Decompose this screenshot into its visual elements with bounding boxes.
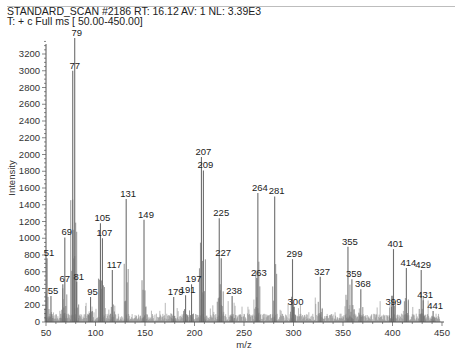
y-tick-label: 200 [24,299,40,310]
peak-labels: 5155676977798195105107117131149179191197… [44,27,443,311]
peak-label: 149 [138,209,154,220]
peak-label: 414 [400,257,416,268]
peak-label: 238 [226,285,242,296]
peak-label: 117 [107,259,122,270]
y-tick-label: 1000 [19,232,40,243]
y-tick-label: 400 [24,283,40,294]
peak-label: 401 [388,238,404,249]
x-tick-label: 200 [187,327,203,338]
y-tick-label: 2200 [19,132,40,143]
peak-label: 191 [180,284,196,295]
peak-label: 105 [95,212,111,223]
y-tick-label: 2400 [19,115,40,126]
peak-label: 429 [415,259,431,270]
peak-label: 431 [417,289,433,300]
x-tick-label: 250 [236,327,252,338]
y-axis-title: Intensity [6,160,17,196]
labeled-peaks [47,38,433,322]
y-tick-label: 800 [24,249,40,260]
mass-spectrum-chart: 0200400600800100012001400160018002000220… [0,0,463,355]
peak-label: 225 [213,207,229,218]
y-tick-label: 2800 [19,82,40,93]
peak-label: 368 [355,278,371,289]
x-tick-label: 350 [335,327,351,338]
x-axis-title: m/z [236,339,252,350]
y-tick-label: 1600 [19,182,40,193]
peak-label: 51 [44,247,55,258]
peak-label: 81 [73,271,84,282]
peak-label: 399 [386,296,402,307]
peak-label: 95 [87,286,98,297]
peak-label: 299 [287,248,303,259]
y-tick-label: 1800 [19,165,40,176]
peak-label: 207 [196,146,212,157]
y-tick-label: 2000 [19,149,40,160]
peak-label: 264 [252,182,268,193]
x-tick-label: 50 [41,327,52,338]
peak-label: 327 [314,266,330,277]
x-tick-label: 300 [286,327,302,338]
peak-label: 197 [186,273,202,284]
peak-label: 227 [215,247,231,258]
peak-label: 355 [342,236,358,247]
peak-label: 77 [69,60,80,71]
peak-label: 55 [48,285,59,296]
x-tick-label: 450 [434,327,450,338]
y-tick-label: 1200 [19,216,40,227]
peak-label: 79 [71,27,82,38]
y-tick-label: 0 [35,316,40,327]
peak-label: 281 [269,185,285,196]
x-tick-label: 100 [88,327,104,338]
peak-label: 69 [62,226,73,237]
y-tick-label: 1400 [19,199,40,210]
x-tick-label: 400 [385,327,401,338]
peak-label: 263 [251,267,267,278]
y-tick-label: 3200 [19,48,40,59]
peak-label: 131 [120,188,136,199]
peak-label: 441 [427,300,443,311]
peak-label: 300 [288,296,304,307]
x-tick-label: 150 [137,327,153,338]
peak-label: 209 [197,159,213,170]
peak-label: 107 [97,227,113,238]
y-tick-label: 2600 [19,98,40,109]
peak-label: 67 [60,273,71,284]
y-tick-label: 600 [24,266,40,277]
y-tick-label: 3000 [19,65,40,76]
